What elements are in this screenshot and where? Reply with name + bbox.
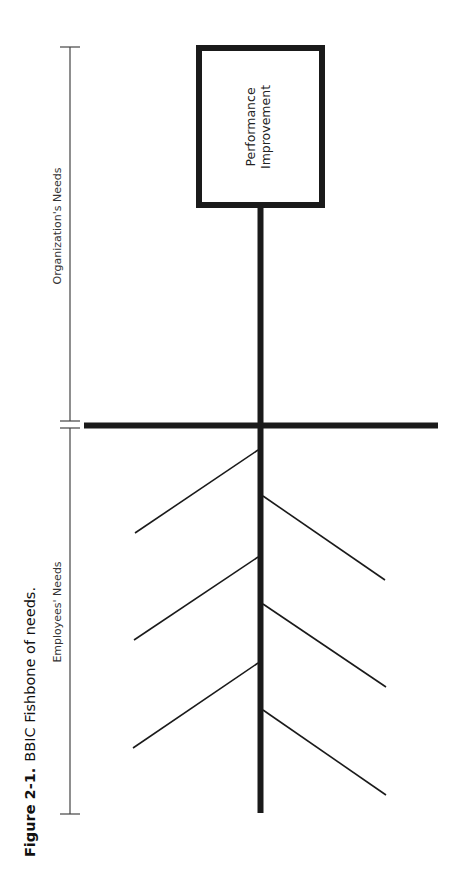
fishbone-diagram	[0, 0, 469, 873]
head-box-line-2: Improvement	[258, 85, 273, 169]
right-branch-2	[263, 604, 386, 687]
right-branch-1	[263, 496, 385, 580]
employees-needs-label: Employees' Needs	[51, 561, 64, 662]
left-branch-2	[134, 557, 258, 640]
figure-caption: Figure 2-1.BBIC Fishbone of needs.	[22, 587, 38, 857]
right-branch-3	[263, 710, 386, 795]
figure-number: Figure 2-1.	[22, 768, 38, 857]
left-branch-1	[135, 450, 258, 533]
figure-title: BBIC Fishbone of needs.	[22, 587, 38, 762]
head-box-line-1: Performance	[243, 85, 258, 169]
left-branch-3	[133, 663, 258, 748]
head-box-label: Performance Improvement	[243, 85, 273, 169]
organization-needs-label: Organization's Needs	[51, 167, 64, 284]
